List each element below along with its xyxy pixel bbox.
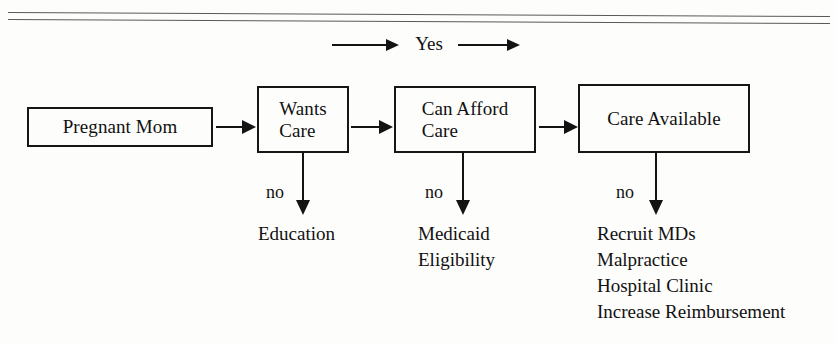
yes-label: Yes <box>406 33 452 55</box>
top-rule-upper <box>8 12 830 17</box>
node-label: Wants Care <box>279 98 327 141</box>
arrow-shaft <box>655 153 657 200</box>
arrow-head <box>296 200 310 215</box>
arrow-right-icon <box>351 120 393 134</box>
arrow-head <box>386 39 399 51</box>
outcome-education: Education <box>258 221 335 247</box>
arrow-shaft <box>302 153 304 200</box>
arrow-shaft <box>539 126 565 128</box>
yes-branch-row: Yes <box>330 33 530 59</box>
arrow-down-icon <box>456 153 470 215</box>
arrow-right-icon <box>539 120 578 134</box>
arrow-head <box>456 200 470 215</box>
node-wants-care: Wants Care <box>257 86 349 153</box>
arrow-head <box>649 200 663 215</box>
node-label: Can Afford Care <box>422 98 509 141</box>
arrow-shaft <box>216 126 243 128</box>
arrow-down-icon <box>649 153 663 215</box>
arrow-down-icon <box>296 153 310 215</box>
node-label: Pregnant Mom <box>63 116 178 137</box>
node-care-available: Care Available <box>578 84 750 153</box>
arrow-shaft <box>458 44 507 46</box>
arrow-head <box>564 120 578 134</box>
arrow-head <box>507 39 520 51</box>
arrow-shaft <box>332 44 386 46</box>
arrow-right-icon <box>332 39 399 52</box>
node-pregnant-mom: Pregnant Mom <box>27 107 213 147</box>
node-label: Care Available <box>607 108 720 129</box>
arrow-head <box>379 120 393 134</box>
node-can-afford-care: Can Afford Care <box>394 86 536 153</box>
arrow-right-icon <box>458 39 520 52</box>
outcome-care-availability-actions: Recruit MDs Malpractice Hospital Clinic … <box>597 221 785 325</box>
outcome-medicaid-eligibility: Medicaid Eligibility <box>418 221 495 273</box>
arrow-shaft <box>351 126 380 128</box>
no-label-can-afford-care: no <box>425 183 443 201</box>
arrow-head <box>242 120 256 134</box>
flowchart-page: Yes Pregnant Mom Wants Care Can Afford C… <box>0 0 836 344</box>
arrow-right-icon <box>216 120 256 134</box>
no-label-wants-care: no <box>266 183 284 201</box>
no-label-care-available: no <box>616 183 634 201</box>
arrow-shaft <box>462 153 464 200</box>
top-rule-lower <box>8 19 830 24</box>
